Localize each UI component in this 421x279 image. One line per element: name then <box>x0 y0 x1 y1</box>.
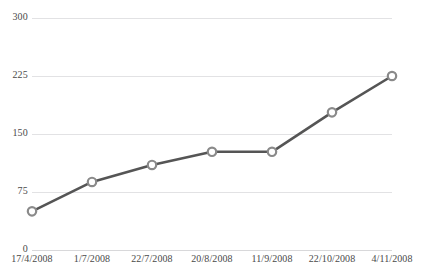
x-tick-label-2: 22/7/2008 <box>131 253 172 265</box>
x-tick-label-6: 4/11/2008 <box>371 253 412 265</box>
x-tick-label-4: 11/9/2008 <box>251 253 292 265</box>
data-point-5 <box>328 108 336 116</box>
data-point-6 <box>388 72 396 80</box>
data-point-1 <box>88 178 96 186</box>
data-point-2 <box>148 161 156 169</box>
data-point-0 <box>28 207 36 215</box>
x-tick-label-0: 17/4/2008 <box>11 253 52 265</box>
x-tick-label-1: 1/7/2008 <box>74 253 110 265</box>
data-point-3 <box>208 148 216 156</box>
x-tick-label-5: 22/10/2008 <box>309 253 356 265</box>
series-markers-0 <box>28 72 396 216</box>
line-chart: 075150225300 17/4/20081/7/200822/7/20082… <box>0 0 421 279</box>
x-tick-label-3: 20/8/2008 <box>191 253 232 265</box>
data-point-4 <box>268 148 276 156</box>
data-series-layer <box>0 0 421 279</box>
series-line-0 <box>32 76 392 211</box>
x-axis: 17/4/20081/7/200822/7/200820/8/200811/9/… <box>0 253 421 269</box>
